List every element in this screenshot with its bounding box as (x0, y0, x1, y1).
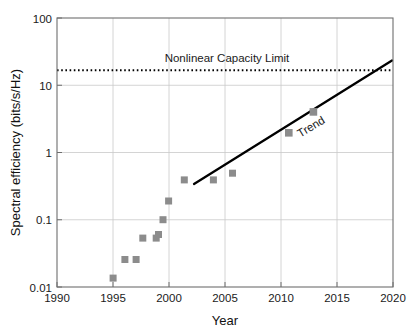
y-axis-title: Spectral efficiency (bits/s/Hz) (8, 69, 23, 236)
data-point (310, 108, 318, 116)
y-tick-label: 1 (46, 147, 52, 159)
y-tick-label: 0.1 (36, 214, 52, 226)
x-tick-label: 2020 (380, 292, 406, 304)
y-tick-label: 10 (39, 80, 52, 92)
y-tick-label: 100 (33, 13, 52, 25)
data-point (160, 216, 167, 223)
data-point (121, 256, 128, 263)
x-axis-tick-labels: 1990 1995 2000 2005 2010 2015 2020 (44, 292, 406, 304)
data-point (181, 176, 188, 183)
data-point (110, 275, 117, 282)
x-tick-label: 1990 (44, 292, 70, 304)
x-tick-label: 2015 (324, 292, 350, 304)
y-axis-tick-labels: 100 10 1 0.1 0.01 (30, 13, 52, 294)
data-point (285, 129, 293, 137)
nonlinear-capacity-limit-label: Nonlinear Capacity Limit (165, 52, 290, 64)
data-point (155, 231, 162, 238)
data-point (210, 176, 217, 183)
x-tick-label: 2005 (212, 292, 238, 304)
spectral-efficiency-chart: 100 10 1 0.1 0.01 1990 1995 2000 2005 20… (0, 0, 415, 333)
data-point (165, 198, 172, 205)
data-point (133, 256, 140, 263)
x-tick-label: 2000 (156, 292, 182, 304)
x-tick-label: 1995 (100, 292, 126, 304)
data-point (139, 235, 146, 242)
data-point (229, 170, 236, 177)
x-tick-label: 2010 (268, 292, 294, 304)
x-axis-title: Year (212, 313, 239, 328)
